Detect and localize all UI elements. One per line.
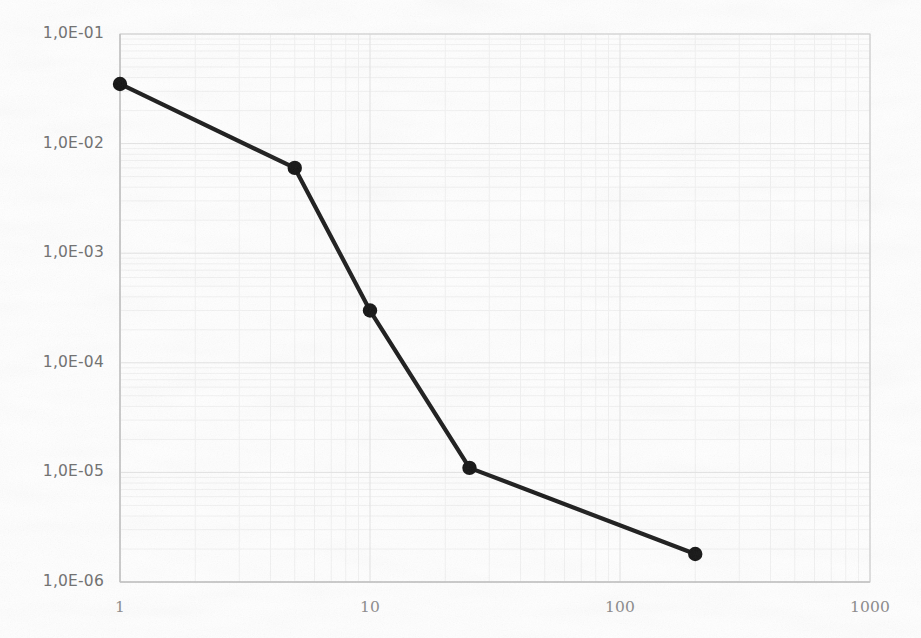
y-tick-label-0: 1,0E-01 (43, 24, 104, 42)
major-gridlines (120, 34, 870, 582)
data-point-marker-0 (113, 77, 127, 91)
line-chart-figure: 1,0E-011,0E-021,0E-031,0E-041,0E-051,0E-… (0, 0, 921, 638)
x-tick-label-2: 100 (570, 598, 670, 616)
x-tick-label-0: 1 (70, 598, 170, 616)
x-tick-label-1: 10 (320, 598, 420, 616)
chart-page: 1,0E-011,0E-021,0E-031,0E-041,0E-051,0E-… (0, 0, 921, 638)
y-tick-label-5: 1,0E-06 (43, 572, 104, 590)
data-point-marker-2 (363, 303, 377, 317)
data-point-marker-3 (462, 461, 476, 475)
y-tick-label-4: 1,0E-05 (43, 462, 104, 480)
y-tick-label-3: 1,0E-04 (43, 353, 104, 371)
data-point-markers (113, 77, 703, 561)
minor-gridlines (120, 34, 870, 582)
data-point-marker-4 (688, 547, 702, 561)
y-tick-label-2: 1,0E-03 (43, 243, 104, 261)
x-tick-label-3: 1000 (820, 598, 920, 616)
plot-canvas (0, 0, 921, 638)
y-tick-label-1: 1,0E-02 (43, 134, 104, 152)
data-point-marker-1 (288, 161, 302, 175)
plot-frame (120, 34, 870, 582)
